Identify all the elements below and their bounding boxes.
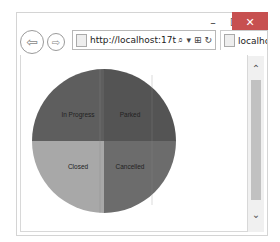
label-cancelled: Cancelled [116,163,145,170]
slice-cancelled[interactable] [104,141,176,213]
label-closed: Closed [68,163,89,170]
pie-chart: In Progress Parked Cancelled Closed [0,0,280,242]
slice-closed[interactable] [32,141,104,213]
scroll-down-button[interactable]: ⌄ [248,206,264,222]
chevron-up-icon: ⌃ [252,63,260,74]
slice-in-progress[interactable] [32,69,104,141]
label-in-progress: In Progress [61,111,95,119]
scroll-up-button[interactable]: ⌃ [248,60,264,76]
slice-parked[interactable] [104,69,176,141]
scroll-thumb[interactable] [251,80,261,200]
vertical-scrollbar[interactable]: ⌃ ⌄ [248,56,264,232]
label-parked: Parked [120,111,141,118]
chevron-down-icon: ⌄ [252,209,260,220]
